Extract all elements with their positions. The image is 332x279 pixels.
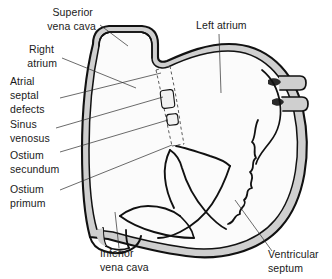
label-ventricular-septum: Ventricular septum: [268, 248, 322, 274]
label-atrial-septal-defects-line3: defects: [10, 103, 45, 115]
anatomical-diagram: Superior vena cava Right atrium Atrial s…: [0, 0, 332, 279]
label-sinus-venosus-line2: venosus: [10, 132, 50, 144]
heart-diagram-svg: Superior vena cava Right atrium Atrial s…: [0, 0, 332, 279]
label-superior-vena-cava-line1: Superior: [52, 6, 93, 18]
label-right-atrium-line2: atrium: [27, 57, 57, 69]
label-superior-vena-cava: Superior vena cava: [47, 6, 96, 32]
label-inferior-vena-cava: Inferior vena cava: [100, 247, 149, 273]
pulmonary-vein-upper: [279, 76, 306, 90]
label-left-atrium-line1: Left atrium: [196, 19, 247, 31]
label-ventricular-septum-line2: septum: [268, 262, 303, 274]
label-ostium-primum-line1: Ostium: [10, 183, 44, 195]
label-inferior-vena-cava-line1: Inferior: [100, 247, 134, 259]
label-left-atrium: Left atrium: [196, 19, 247, 31]
label-ostium-primum: Ostium primum: [10, 183, 47, 209]
label-atrial-septal-defects-line2: septal: [10, 89, 39, 101]
label-sinus-venosus: Sinus venosus: [10, 118, 50, 144]
label-ostium-secundum: Ostium secundum: [10, 149, 59, 175]
label-ostium-secundum-line2: secundum: [10, 163, 59, 175]
defect-ostium-secundum: [166, 113, 178, 125]
label-sinus-venosus-line1: Sinus: [10, 118, 37, 130]
label-ostium-primum-line2: primum: [10, 197, 46, 209]
defect-sinus-venosus: [160, 89, 175, 108]
label-ventricular-septum-line1: Ventricular: [268, 248, 319, 260]
label-inferior-vena-cava-line2: vena cava: [100, 261, 149, 273]
pulmonary-vein-lower: [282, 97, 308, 111]
label-right-atrium: Right atrium: [27, 43, 57, 69]
label-ostium-secundum-line1: Ostium: [10, 149, 44, 161]
label-superior-vena-cava-line2: vena cava: [47, 20, 96, 32]
label-right-atrium-line1: Right: [29, 43, 54, 55]
label-atrial-septal-defects-line1: Atrial: [10, 75, 35, 87]
label-atrial-septal-defects: Atrial septal defects: [10, 75, 45, 115]
